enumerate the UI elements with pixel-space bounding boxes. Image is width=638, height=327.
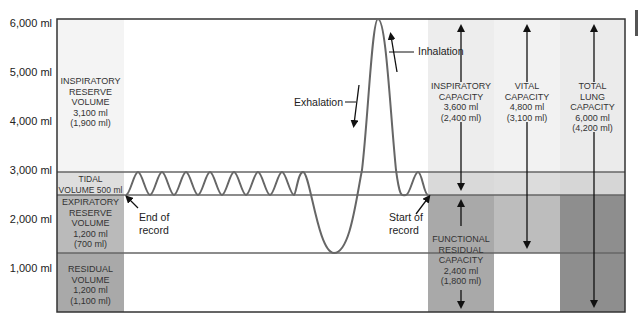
tidal-volume-label: TIDAL VOLUME 500 ml [57, 174, 124, 195]
rv-value: 1,200 ml [57, 285, 124, 296]
end-of-record-label: End of record [139, 211, 169, 237]
spirogram-trace [126, 19, 428, 253]
rv-alt-value: (1,100 ml) [57, 296, 124, 307]
tlc-label-line: LUNG [560, 92, 625, 103]
frc-label-line: CAPACITY [426, 255, 496, 266]
erv-value: 1,200 ml [57, 229, 124, 240]
ic-label-line: CAPACITY [426, 92, 496, 103]
y-tick-6000: 6,000 ml [0, 17, 52, 29]
irv-label-line: VOLUME [57, 97, 124, 108]
frc-label: FUNCTIONAL RESIDUAL CAPACITY 2,400 ml (1… [426, 234, 496, 287]
erv-label-line: VOLUME [57, 218, 124, 229]
vc-value: 4,800 ml [494, 102, 560, 113]
erv-label: EXPIRATORY RESERVE VOLUME 1,200 ml (700 … [57, 197, 124, 250]
rv-label: RESIDUAL VOLUME 1,200 ml (1,100 ml) [57, 264, 124, 306]
tv-label-line: TIDAL [57, 174, 124, 185]
erv-label-line: RESERVE [57, 208, 124, 219]
vc-label-line: VITAL [494, 81, 560, 92]
tlc-label: TOTAL LUNG CAPACITY 6,000 ml (4,200 ml) [560, 81, 625, 134]
exhalation-label: Exhalation [294, 96, 343, 109]
tlc-alt-value: (4,200 ml) [560, 123, 625, 134]
tlc-tidal-band [560, 172, 625, 195]
irv-alt-value: (1,900 ml) [57, 118, 124, 129]
ic-label-line: INSPIRATORY [426, 81, 496, 92]
ic-alt-value: (2,400 ml) [426, 113, 496, 124]
y-tick-4000: 4,000 ml [0, 115, 52, 127]
frc-label-line: RESIDUAL [426, 245, 496, 256]
frc-alt-value: (1,800 ml) [426, 276, 496, 287]
irv-label-line: INSPIRATORY [57, 76, 124, 87]
start-of-record-line: Start of [389, 211, 423, 224]
start-of-record-line: record [389, 224, 423, 237]
end-of-record-line: record [139, 224, 169, 237]
tlc-label-line: CAPACITY [560, 102, 625, 113]
y-tick-5000: 5,000 ml [0, 66, 52, 78]
irv-label-line: RESERVE [57, 87, 124, 98]
rv-label-line: VOLUME [57, 275, 124, 286]
erv-alt-value: (700 ml) [57, 239, 124, 250]
ic-label: INSPIRATORY CAPACITY 3,600 ml (2,400 ml) [426, 81, 496, 123]
tv-label-line: VOLUME 500 ml [57, 185, 124, 196]
vc-label-line: CAPACITY [494, 92, 560, 103]
y-tick-1000: 1,000 ml [0, 262, 52, 274]
irv-value: 3,100 ml [57, 108, 124, 119]
y-tick-2000: 2,000 ml [0, 213, 52, 225]
start-of-record-label: Start of record [389, 211, 423, 237]
end-of-record-line: End of [139, 211, 169, 224]
frc-label-line: FUNCTIONAL [426, 234, 496, 245]
rv-label-line: RESIDUAL [57, 264, 124, 275]
inhalation-label: Inhalation [418, 45, 464, 58]
irv-label: INSPIRATORY RESERVE VOLUME 3,100 ml (1,9… [57, 76, 124, 129]
y-tick-3000: 3,000 ml [0, 164, 52, 176]
frc-value: 2,400 ml [426, 266, 496, 277]
tlc-label-line: TOTAL [560, 81, 625, 92]
tlc-value: 6,000 ml [560, 113, 625, 124]
vc-alt-value: (3,100 ml) [494, 113, 560, 124]
erv-label-line: EXPIRATORY [57, 197, 124, 208]
ic-value: 3,600 ml [426, 102, 496, 113]
vc-label: VITAL CAPACITY 4,800 ml (3,100 ml) [494, 81, 560, 123]
